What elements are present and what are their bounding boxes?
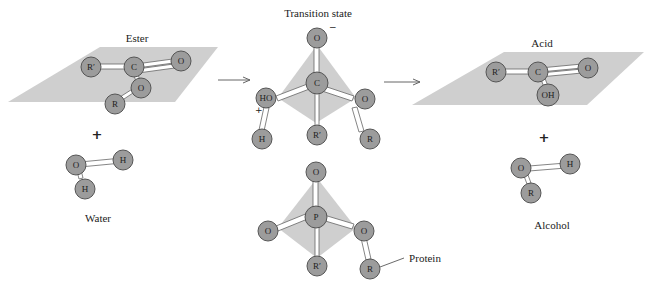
atom-label: OH — [542, 90, 555, 100]
ester-molecule: R′ C O O R — [8, 47, 218, 114]
atom-label: C — [314, 78, 320, 88]
atom-label: H — [259, 134, 266, 144]
atom-label: H — [120, 155, 127, 165]
atom-label: O — [265, 226, 272, 236]
plus-sign-right: + — [539, 130, 550, 145]
water-molecule: O H H — [66, 150, 133, 199]
atom-label: O — [73, 160, 80, 170]
positive-charge: + — [255, 105, 263, 115]
atom-label: R — [112, 99, 118, 109]
atom-label: O — [314, 33, 321, 43]
acid-molecule: R′ C O OH — [412, 52, 644, 106]
atom-label: O — [313, 167, 320, 177]
atom-label: C — [535, 67, 541, 77]
acid-plane — [412, 52, 644, 105]
transition-state-label: Transition state — [284, 7, 352, 19]
ester-hydrolysis-diagram: R′ C O O R O H H — [0, 0, 649, 294]
protein-label: Protein — [409, 252, 441, 264]
protein-callout-line — [380, 258, 404, 267]
atom-label: P — [313, 212, 318, 222]
atom-label: O — [585, 63, 592, 73]
atom-label: O — [178, 56, 185, 66]
atom-label: R — [367, 134, 373, 144]
atom-label: C — [131, 62, 137, 72]
atom-label: O — [362, 94, 369, 104]
atom-label: R — [528, 188, 534, 198]
atom-label: HO — [260, 93, 273, 103]
atom-label: R′ — [492, 67, 500, 77]
plus-sign-left: + — [92, 127, 103, 142]
acid-label: Acid — [531, 37, 552, 49]
atom-label: H — [567, 159, 574, 169]
atom-label: R — [367, 264, 373, 274]
water-label: Water — [85, 212, 111, 224]
phosphonate-analog-molecule: O P O O R′ R — [258, 162, 404, 279]
atom-label: H — [82, 184, 89, 194]
negative-charge: − — [329, 22, 337, 32]
atom-label: R′ — [313, 261, 321, 271]
alcohol-molecule: O H R — [511, 154, 580, 203]
ester-label: Ester — [126, 32, 149, 44]
atom-label: R′ — [87, 62, 95, 72]
atom-label: O — [518, 163, 525, 173]
atom-label: R′ — [313, 130, 321, 140]
atom-label: O — [138, 83, 145, 93]
transition-state-molecule: O C HO O H R′ R — [252, 28, 380, 149]
alcohol-label: Alcohol — [534, 219, 569, 231]
atom-label: O — [361, 226, 368, 236]
